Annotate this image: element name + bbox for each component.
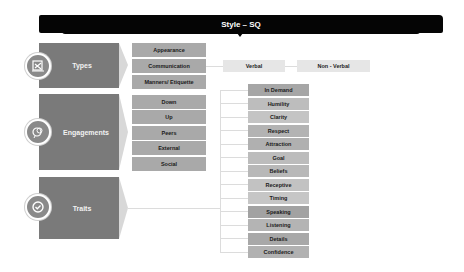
engagement-item-social: Social: [132, 157, 206, 171]
chat-bubbles-icon: [25, 119, 51, 145]
chevron-arrow-icon: [119, 94, 128, 170]
connector-branch: [220, 103, 248, 104]
trait-item-goal: Goal: [248, 152, 309, 164]
trait-item-speaking: Speaking: [248, 206, 309, 218]
chevron-arrow-icon: [119, 177, 128, 239]
chevron-arrow-icon: [119, 43, 128, 87]
item-label: Goal: [272, 155, 284, 161]
category-label: Traits: [73, 205, 92, 212]
connector-branch: [220, 198, 248, 199]
header-bar: Style – SQ: [39, 15, 443, 33]
item-label: Social: [161, 161, 177, 167]
connector-branch: [220, 157, 248, 158]
connector-line-communication: [206, 66, 223, 67]
connector-branch: [220, 90, 248, 91]
item-label: Humility: [268, 101, 290, 107]
item-label: Attraction: [266, 141, 292, 147]
item-label: Communication: [148, 63, 190, 69]
connector-branch: [220, 225, 248, 226]
engagement-item-down: Down: [132, 95, 206, 109]
trait-item-beliefs: Beliefs: [248, 165, 309, 177]
item-label: Verbal: [246, 63, 263, 69]
trait-item-timing: Timing: [248, 192, 309, 204]
item-label: Manners/ Etiquette: [144, 79, 193, 85]
item-label: Appearance: [153, 47, 185, 53]
connector-branch: [220, 252, 248, 253]
item-label: Confidence: [264, 249, 294, 255]
engagement-item-up: Up: [132, 110, 206, 124]
diagram-title: Style – SQ: [221, 20, 261, 29]
check-badge-icon: [25, 194, 51, 220]
connector-branch: [220, 171, 248, 172]
trait-item-confidence: Confidence: [248, 246, 309, 258]
trait-item-details: Details: [248, 233, 309, 245]
trait-item-listening: Listening: [248, 219, 309, 231]
trait-item-humility: Humility: [248, 98, 309, 110]
header-pointer: [237, 33, 243, 37]
connector-line-verbal: [285, 66, 297, 67]
connector-line-traits: [128, 208, 220, 209]
item-label: Listening: [266, 222, 290, 228]
engagement-item-external: External: [132, 141, 206, 155]
types-item-manners: Manners/ Etiquette: [132, 75, 206, 89]
item-label: Non - Verbal: [317, 63, 349, 69]
item-label: Clarity: [270, 114, 287, 120]
connector-branch: [220, 130, 248, 131]
category-traits: Traits: [39, 177, 119, 239]
connector-branch: [220, 117, 248, 118]
category-label: Types: [72, 62, 92, 69]
communication-item-non-verbal: Non - Verbal: [297, 60, 370, 72]
item-label: Down: [162, 99, 177, 105]
types-item-appearance: Appearance: [132, 43, 206, 57]
item-label: Speaking: [266, 209, 290, 215]
connector-branch: [220, 238, 248, 239]
connector-branch: [220, 211, 248, 212]
communication-item-verbal: Verbal: [223, 60, 285, 72]
item-label: Details: [269, 236, 287, 242]
trait-item-clarity: Clarity: [248, 111, 309, 123]
category-types: Types: [39, 43, 119, 88]
item-label: Peers: [162, 130, 177, 136]
trait-item-respect: Respect: [248, 125, 309, 137]
trait-item-receptive: Receptive: [248, 179, 309, 191]
item-label: External: [158, 145, 180, 151]
item-label: Up: [165, 114, 172, 120]
trait-item-in-demand: In Demand: [248, 84, 309, 96]
item-label: Receptive: [266, 182, 292, 188]
item-label: In Demand: [264, 87, 292, 93]
trait-item-attraction: Attraction: [248, 138, 309, 150]
engagement-item-peers: Peers: [132, 126, 206, 140]
item-label: Timing: [270, 195, 288, 201]
item-label: Beliefs: [269, 168, 287, 174]
category-label: Engagements: [63, 129, 109, 136]
connector-branch: [220, 144, 248, 145]
types-item-communication: Communication: [132, 59, 206, 73]
item-label: Respect: [268, 128, 289, 134]
scissors-document-icon: [25, 53, 51, 79]
category-engagements: Engagements: [39, 94, 119, 170]
connector-branch: [220, 184, 248, 185]
